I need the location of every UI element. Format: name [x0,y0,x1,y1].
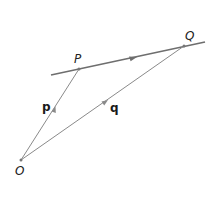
label-o: O [15,164,24,178]
point-p [78,68,81,71]
arrow-icon [102,100,109,105]
vector-diagram: O P Q p q [0,0,217,201]
point-o [20,159,23,162]
vector-p-line [21,69,79,160]
arrow-icon [129,57,137,62]
label-vector-p: p [42,100,51,114]
label-vector-q: q [110,101,119,115]
label-q: Q [185,29,194,43]
label-p: P [74,52,82,66]
point-q [183,45,186,48]
arrow-icon [52,106,56,113]
